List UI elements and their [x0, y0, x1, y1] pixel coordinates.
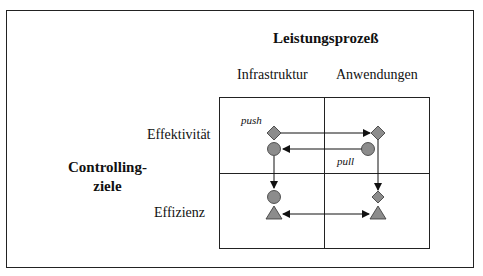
triangle-infrastruktur-effizienz — [266, 206, 282, 219]
circle-anwendungen-effektivitaet — [362, 143, 375, 156]
diagram-graphic — [0, 0, 483, 276]
diamond-infrastruktur-effektivitaet — [267, 126, 281, 140]
pull-label: pull — [337, 155, 354, 167]
triangle-anwendungen-effizienz — [370, 206, 386, 219]
circle-infrastruktur-effizienz — [268, 191, 281, 204]
diamond-anwendungen-effektivitaet — [371, 126, 385, 140]
circle-infrastruktur-effektivitaet — [268, 143, 281, 156]
diamond-anwendungen-effizienz — [372, 191, 384, 203]
push-label: push — [241, 114, 262, 126]
